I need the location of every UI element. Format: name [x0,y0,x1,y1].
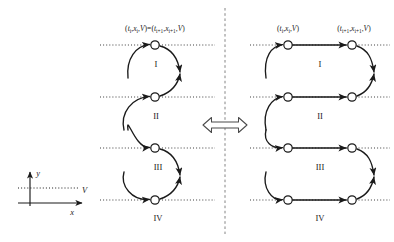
right-arc-into-node-4-left [265,172,282,200]
row-label-right-2: II [317,111,323,121]
right-arc-out-node-1-right [357,46,374,72]
dotted-lines-left [100,45,215,200]
row-label-right-4: IV [315,213,325,223]
node-right-row-2-left[interactable] [284,93,292,101]
node-right-row-1-right[interactable] [348,41,356,49]
node-left-row-2[interactable] [151,93,159,101]
svg-text:(ti,xi,V): (ti,xi,V) [277,24,299,34]
node-left-row-4[interactable] [151,196,159,204]
right-panel-equation-left: (ti,xi,V) [277,24,299,34]
right-arc-out-node-4-right-up [357,177,374,199]
node-right-row-4-left[interactable] [284,196,292,204]
node-left-row-1[interactable] [151,41,159,49]
left-arc-out-node-3 [160,149,180,175]
axis-label-y: y [35,169,40,178]
left-arc-into-node-2 [123,96,149,130]
eq-close-paren-2: ) [182,24,185,33]
row-label-left-4: IV [153,213,163,223]
right-arc-into-node-3-left [265,130,282,148]
left-panel-paths [123,44,180,199]
req-l-close: ) [296,24,299,33]
right-arc-out-node-3-right [357,149,374,175]
row-label-left-1: I [155,59,158,69]
right-panel-equation-right: (ti+1,xi+1,V) [337,24,371,34]
left-arc-out-node-4-up [160,177,180,199]
svg-text:(ti+1,xi+1,V): (ti+1,xi+1,V) [337,24,371,34]
node-right-row-3-left[interactable] [284,144,292,152]
right-arc-into-node-2-left [265,97,282,130]
req-r-close: ) [368,24,371,33]
figure-root: y V x (ti,xi,V)=(ti+1,xi+1,V) (ti,xi,V) … [0,0,394,242]
node-left-row-3[interactable] [151,144,159,152]
row-label-right-1: I [319,59,322,69]
node-right-row-2-right[interactable] [348,93,356,101]
node-right-row-4-right[interactable] [348,196,356,204]
diagram-canvas: y V x (ti,xi,V)=(ti+1,xi+1,V) (ti,xi,V) … [0,0,394,242]
axis-label-v: V [82,186,88,195]
left-panel-equation: (ti,xi,V)=(ti+1,xi+1,V) [125,24,185,34]
row-label-right-3: III [316,162,325,172]
left-arc-into-node-1 [128,44,150,78]
axes-legend: y V x [18,169,88,217]
right-panel-row-labels: I II III IV [315,59,325,223]
svg-text:(ti,xi,V)=(ti+1,xi+1,V): (ti,xi,V)=(ti+1,xi+1,V) [125,24,185,34]
node-right-row-1-left[interactable] [284,41,292,49]
left-arc-out-node-1 [160,46,180,72]
axis-label-x: x [69,208,74,217]
row-label-left-2: II [153,111,159,121]
left-arc-into-node-3 [128,125,150,147]
left-arc-into-node-4 [123,172,149,200]
right-arc-out-node-2-right-up [357,74,374,96]
right-arc-into-node-1-left [265,45,282,78]
row-label-left-3: III [154,162,163,172]
node-right-row-3-right[interactable] [348,144,356,152]
left-arc-out-node-2-up [160,74,180,96]
